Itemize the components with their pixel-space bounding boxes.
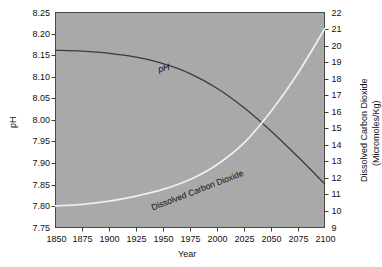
y-axis-right-tick-label: 17 [332,91,342,100]
x-axis-title: Year [178,249,196,259]
y-axis-right-tick-label: 18 [332,75,342,84]
y-axis-right-tick-label: 21 [332,25,342,34]
y-axis-left-tick-label: 7.80 [6,202,50,211]
y-axis-left-tick-label: 7.95 [6,137,50,146]
y-axis-right-tick-label: 14 [332,141,342,150]
y-axis-left-tick-label: 7.90 [6,159,50,168]
y-axis-right-tick-label: 9 [332,224,337,233]
y-axis-left-title: pH [8,116,18,128]
y-axis-left-tick-label: 8.20 [6,30,50,39]
chart-figure: 7.757.807.857.907.958.008.058.108.158.20… [0,0,382,267]
y-axis-right-title-line1: Dissolved Carbon Dioxide [359,78,369,182]
y-axis-left-tick-label: 8.25 [6,9,50,18]
y-axis-left-tick-label: 8.10 [6,73,50,82]
chart-canvas [0,0,382,267]
y-axis-left-tick-label: 7.85 [6,181,50,190]
y-axis-right-tick-label: 12 [332,174,342,183]
y-axis-left-tick-label: 8.05 [6,94,50,103]
y-axis-right-tick-label: 10 [332,207,342,216]
y-axis-right-tick-label: 22 [332,9,342,18]
y-axis-left-tick-label: 8.15 [6,51,50,60]
y-axis-right-tick-label: 16 [332,108,342,117]
y-axis-left-tick-label: 7.75 [6,224,50,233]
y-axis-right-tick-label: 13 [332,157,342,166]
y-axis-right-tick-label: 20 [332,42,342,51]
y-axis-right-tick-label: 11 [332,190,341,199]
y-axis-right-tick-label: 15 [332,124,342,133]
y-axis-right-tick-label: 19 [332,58,342,67]
y-axis-right-title-line2: (Micromoles/Kg) [371,100,381,166]
x-axis-tick-label: 2100 [306,235,346,244]
